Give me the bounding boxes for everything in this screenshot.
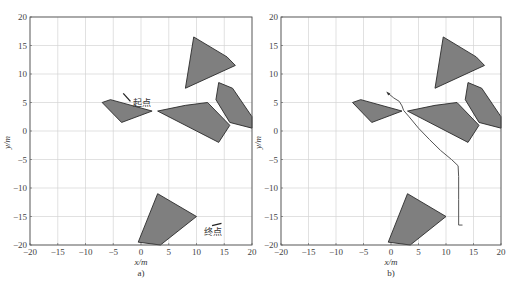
- annotation-label: 终点: [204, 226, 222, 237]
- chart-panel-a: 起点终点−20−15−10−50510152020151050−5−10−15−…: [2, 12, 257, 278]
- chart-canvas: 起点终点−20−15−10−50510152020151050−5−10−15−…: [0, 0, 512, 286]
- x-axis-label: x/m: [134, 257, 148, 267]
- y-tick-label: 15: [269, 41, 279, 51]
- panel-label: a): [138, 268, 145, 278]
- y-tick-label: 10: [269, 69, 279, 79]
- y-tick-label: 15: [18, 41, 28, 51]
- y-tick-label: −5: [17, 155, 27, 165]
- x-tick-label: 15: [469, 247, 479, 257]
- x-tick-label: 5: [416, 247, 421, 257]
- y-tick-label: −10: [264, 183, 279, 193]
- obstacle-polygon: [435, 37, 485, 88]
- x-axis-label: x/m: [384, 257, 398, 267]
- obstacle-polygon: [388, 194, 446, 245]
- y-tick-label: −15: [264, 212, 279, 222]
- x-tick-label: 5: [167, 247, 172, 257]
- y-tick-label: 0: [274, 126, 279, 136]
- panel-label: b): [387, 268, 395, 278]
- obstacle-polygon: [353, 100, 403, 123]
- y-axis-label: y/m: [2, 135, 12, 149]
- y-tick-label: 0: [23, 126, 28, 136]
- y-tick-label: 5: [274, 98, 279, 108]
- annotation-arrow-icon: [212, 223, 221, 225]
- y-tick-label: −15: [13, 212, 28, 222]
- x-tick-label: −15: [51, 247, 66, 257]
- annotation-label: 起点: [133, 98, 151, 108]
- x-tick-label: −10: [78, 247, 93, 257]
- x-tick-label: −5: [108, 247, 118, 257]
- x-tick-label: −15: [301, 247, 316, 257]
- x-tick-label: −5: [359, 247, 369, 257]
- y-tick-label: −10: [13, 183, 28, 193]
- annotation-arrow-icon: [123, 93, 130, 101]
- chart-panel-b: −20−15−10−50510152020151050−5−10−15−20x/…: [253, 12, 506, 278]
- x-tick-label: 20: [248, 247, 258, 257]
- y-tick-label: 20: [18, 12, 28, 22]
- x-tick-label: 20: [497, 247, 507, 257]
- y-tick-label: −20: [264, 240, 279, 250]
- y-tick-label: −5: [268, 155, 278, 165]
- y-tick-label: 5: [23, 98, 28, 108]
- y-tick-label: 10: [18, 69, 28, 79]
- x-tick-label: −10: [329, 247, 344, 257]
- obstacle-polygon: [138, 194, 196, 245]
- obstacle-polygon: [185, 37, 235, 88]
- y-tick-label: 20: [269, 12, 279, 22]
- x-tick-label: 0: [389, 247, 394, 257]
- y-axis-label: y/m: [253, 135, 263, 149]
- x-tick-label: 10: [442, 247, 452, 257]
- x-tick-label: 0: [139, 247, 144, 257]
- y-tick-label: −20: [13, 240, 28, 250]
- x-tick-label: 15: [220, 247, 230, 257]
- x-tick-label: 10: [192, 247, 202, 257]
